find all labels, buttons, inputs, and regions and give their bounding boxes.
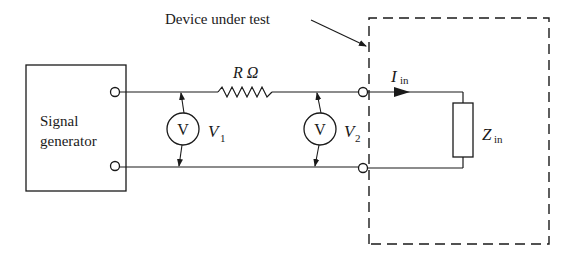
- circuit-diagram: Signal generator R Ω V V 1 V V 2 Device …: [0, 0, 570, 257]
- current-label: I: [390, 67, 398, 86]
- signal-generator-label-line2: generator: [40, 133, 97, 149]
- dut-terminal-bottom: [359, 164, 368, 173]
- impedance-label: Z: [482, 125, 492, 144]
- current-arrow-icon: [394, 87, 410, 97]
- v1-subscript: 1: [220, 132, 226, 144]
- pointer-arrow-icon: [311, 20, 366, 46]
- v2-subscript: 2: [355, 132, 361, 144]
- signal-generator-label-line1: Signal: [40, 113, 78, 129]
- voltmeter-2: V V 2: [304, 93, 361, 166]
- resistor-label: R Ω: [232, 64, 258, 81]
- generator-terminal-bottom: [111, 162, 120, 171]
- resistor-icon: [218, 87, 272, 97]
- impedance-icon: [453, 103, 473, 157]
- svg-text:V: V: [314, 121, 326, 138]
- voltmeter-1: V V 1: [167, 93, 226, 166]
- device-under-test-label: Device under test: [165, 11, 271, 27]
- current-subscript: in: [400, 74, 409, 86]
- dut-terminal-top: [359, 88, 368, 97]
- top-wire: R Ω: [120, 64, 359, 97]
- input-impedance-branch: I in Z in: [368, 67, 504, 168]
- signal-generator: Signal generator: [26, 65, 126, 191]
- generator-terminal-top: [111, 88, 120, 97]
- svg-text:V: V: [177, 121, 189, 138]
- impedance-subscript: in: [494, 133, 503, 145]
